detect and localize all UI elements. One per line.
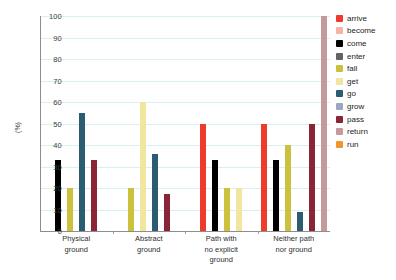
y-axis-tick-label: 70	[22, 76, 62, 85]
x-axis-category-line: ground	[187, 255, 256, 266]
legend-swatch-icon	[336, 40, 343, 47]
legend-item-grow[interactable]: grow	[336, 100, 396, 113]
y-axis-tick-label: 20	[22, 184, 62, 193]
y-axis-tick-label: 30	[22, 162, 62, 171]
x-axis-category-line: no explicit	[187, 245, 256, 256]
y-axis-label: (%)	[14, 122, 21, 133]
bar-come[interactable]	[273, 160, 279, 231]
x-axis-labels: PhysicalgroundAbstractgroundPath withno …	[40, 234, 330, 266]
legend-swatch-icon	[336, 53, 343, 60]
y-axis-tick-label: 50	[22, 119, 62, 128]
bar-pass[interactable]	[164, 194, 170, 231]
legend-item-return[interactable]: return	[336, 125, 396, 138]
legend-swatch-icon	[336, 90, 343, 97]
bar-group-inner	[261, 16, 327, 231]
bar-come[interactable]	[212, 160, 218, 231]
legend-swatch-icon	[336, 141, 343, 148]
x-axis-tick-mark	[113, 231, 114, 234]
bar-group-inner	[200, 16, 242, 231]
legend-label: go	[347, 89, 356, 98]
y-axis-tick-label: 40	[22, 141, 62, 150]
bar-group	[258, 16, 331, 231]
legend-label: enter	[347, 52, 365, 61]
legend-label: get	[347, 77, 358, 86]
legend-item-go[interactable]: go	[336, 88, 396, 101]
legend-label: return	[347, 127, 368, 136]
x-axis-category-line: Abstract	[115, 234, 184, 245]
x-axis-tick-mark	[258, 231, 259, 234]
bar-arrive[interactable]	[261, 124, 267, 232]
legend-label: arrive	[347, 14, 367, 23]
x-axis-category-line: Path with	[187, 234, 256, 245]
x-axis-category-label: Path withno explicitground	[185, 234, 258, 266]
y-axis-tick-label: 90	[22, 33, 62, 42]
plot-area	[40, 16, 330, 231]
bar-group-inner	[128, 16, 170, 231]
bar-arrive[interactable]	[200, 124, 206, 232]
x-axis-category-label: Abstractground	[113, 234, 186, 266]
legend-item-become[interactable]: become	[336, 25, 396, 38]
legend-swatch-icon	[336, 116, 343, 123]
legend-label: come	[347, 39, 367, 48]
bar-group	[185, 16, 258, 231]
bar-go[interactable]	[297, 212, 303, 231]
x-axis-category-line: ground	[42, 245, 111, 256]
y-axis-tick-label: 100	[22, 12, 62, 21]
y-axis-tick-label: 60	[22, 98, 62, 107]
bar-pass[interactable]	[309, 124, 315, 232]
bar-go[interactable]	[152, 154, 158, 231]
legend-label: become	[347, 26, 375, 35]
legend-swatch-icon	[336, 27, 343, 34]
legend-label: grow	[347, 102, 364, 111]
legend-swatch-icon	[336, 65, 343, 72]
legend-label: pass	[347, 115, 364, 124]
legend: arrivebecomecomeenterfallgetgogrowpassre…	[336, 12, 396, 151]
legend-item-run[interactable]: run	[336, 138, 396, 151]
x-axis-category-line: ground	[115, 245, 184, 256]
legend-swatch-icon	[336, 128, 343, 135]
bar-get[interactable]	[236, 188, 242, 231]
x-axis-category-label: Physicalground	[40, 234, 113, 266]
legend-item-arrive[interactable]: arrive	[336, 12, 396, 25]
bar-get[interactable]	[140, 102, 146, 231]
x-axis-tick-mark	[185, 231, 186, 234]
bar-fall[interactable]	[285, 145, 291, 231]
legend-swatch-icon	[336, 78, 343, 85]
legend-item-come[interactable]: come	[336, 37, 396, 50]
legend-item-pass[interactable]: pass	[336, 113, 396, 126]
x-axis-category-line: Physical	[42, 234, 111, 245]
legend-label: fall	[347, 64, 357, 73]
y-axis-tick-label: 10	[22, 205, 62, 214]
bar-groups	[40, 16, 330, 231]
legend-label: run	[347, 140, 359, 149]
bar-fall[interactable]	[224, 188, 230, 231]
legend-item-enter[interactable]: enter	[336, 50, 396, 63]
y-axis-tick-label: 80	[22, 55, 62, 64]
bar-chart: 1009080706050403020100 (%) Physicalgroun…	[0, 0, 396, 280]
legend-swatch-icon	[336, 15, 343, 22]
bar-go[interactable]	[79, 113, 85, 231]
x-axis-category-line: Neither path	[260, 234, 329, 245]
x-axis-category-line: nor ground	[260, 245, 329, 256]
legend-item-fall[interactable]: fall	[336, 62, 396, 75]
legend-swatch-icon	[336, 103, 343, 110]
bar-return[interactable]	[321, 16, 327, 231]
bar-group	[113, 16, 186, 231]
legend-item-get[interactable]: get	[336, 75, 396, 88]
bar-fall[interactable]	[67, 188, 73, 231]
bar-fall[interactable]	[128, 188, 134, 231]
x-axis-category-label: Neither pathnor ground	[258, 234, 331, 266]
bar-pass[interactable]	[91, 160, 97, 231]
